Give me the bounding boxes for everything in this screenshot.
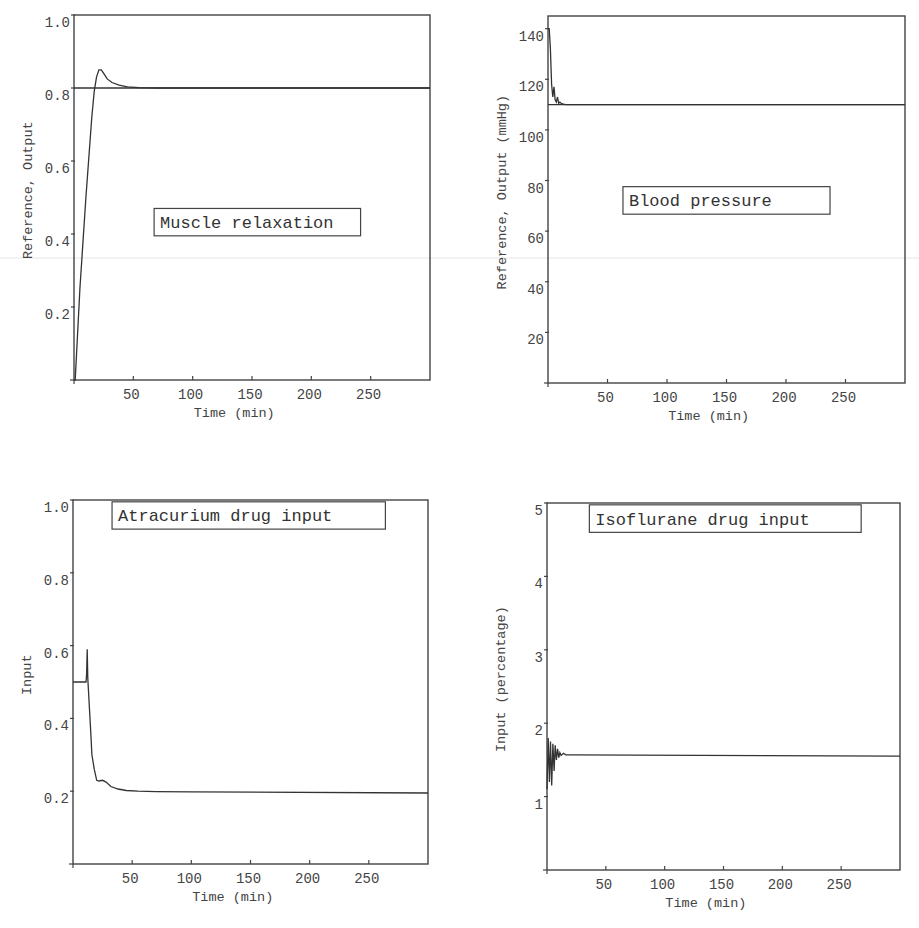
chart-title: Blood pressure	[629, 192, 772, 211]
y-tick-label: 100	[519, 130, 544, 146]
x-tick-label: 150	[709, 877, 734, 893]
y-axis-label: Reference, Output	[21, 121, 36, 259]
y-tick-label: 0.6	[44, 646, 69, 662]
x-tick-label: 250	[831, 390, 856, 406]
y-tick-label: 0.4	[44, 718, 69, 734]
x-tick-label: 100	[178, 387, 203, 403]
x-tick-label: 100	[652, 390, 677, 406]
y-tick-label: 0.8	[44, 573, 69, 589]
chart-title: Atracurium drug input	[118, 507, 332, 526]
y-tick-label: 140	[519, 29, 544, 45]
chart-title: Isoflurane drug input	[595, 511, 809, 530]
muscle-relaxation-plot: 50100150200250Time (min)0.20.40.60.81.0R…	[21, 15, 430, 421]
y-tick-label: 0.6	[45, 161, 70, 177]
y-tick-label: 0.4	[45, 234, 70, 250]
x-tick-label: 200	[771, 390, 796, 406]
y-tick-label: 60	[527, 231, 544, 247]
y-tick-label: 0.8	[45, 88, 70, 104]
series-output-line	[548, 29, 905, 105]
y-tick-label: 40	[527, 282, 544, 298]
y-tick-label: 5	[535, 503, 543, 519]
x-tick-label: 50	[595, 877, 612, 893]
x-tick-label: 150	[237, 387, 262, 403]
x-axis-label: Time (min)	[665, 896, 746, 911]
x-axis-label: Time (min)	[668, 409, 749, 424]
series-input-line	[547, 738, 900, 789]
y-tick-label: 1.0	[45, 15, 70, 31]
y-tick-label: 1.0	[44, 500, 69, 516]
x-tick-label: 200	[768, 877, 793, 893]
chart-title: Muscle relaxation	[160, 214, 333, 233]
y-tick-label: 20	[527, 332, 544, 348]
y-tick-label: 80	[527, 181, 544, 197]
series-input-line	[73, 649, 428, 793]
x-axis-label: Time (min)	[194, 406, 275, 421]
x-tick-label: 250	[827, 877, 852, 893]
x-tick-label: 250	[354, 871, 379, 887]
plot-frame	[73, 500, 428, 864]
y-tick-label: 120	[519, 79, 544, 95]
x-tick-label: 50	[597, 390, 614, 406]
y-tick-label: 2	[535, 723, 543, 739]
y-axis-label: Input (percentage)	[494, 606, 509, 752]
y-tick-label: 1	[535, 797, 543, 813]
y-tick-label: 3	[535, 650, 543, 666]
x-tick-label: 200	[297, 387, 322, 403]
y-axis-label: Input	[20, 654, 35, 695]
figure: 50100150200250Time (min)0.20.40.60.81.0R…	[0, 0, 919, 928]
y-tick-label: 0.2	[45, 307, 70, 323]
x-tick-label: 50	[123, 387, 140, 403]
x-tick-label: 150	[236, 871, 261, 887]
y-tick-label: 0.2	[44, 791, 69, 807]
x-tick-label: 100	[650, 877, 675, 893]
x-axis-label: Time (min)	[192, 890, 273, 905]
plot-frame	[547, 503, 900, 870]
x-tick-label: 50	[122, 871, 139, 887]
x-tick-label: 150	[712, 390, 737, 406]
y-axis-label: Reference, Output (mmHg)	[495, 95, 510, 289]
blood-pressure-plot: 50100150200250Time (min)2040608010012014…	[495, 16, 905, 424]
plot-frame	[74, 15, 430, 380]
y-tick-label: 4	[535, 576, 543, 592]
x-tick-label: 200	[295, 871, 320, 887]
x-tick-label: 100	[177, 871, 202, 887]
x-tick-label: 250	[356, 387, 381, 403]
isoflurane-input-plot: 50100150200250Time (min)12345Input (perc…	[494, 503, 900, 911]
atracurium-input-plot: 50100150200250Time (min)0.20.40.60.81.0I…	[20, 500, 428, 905]
